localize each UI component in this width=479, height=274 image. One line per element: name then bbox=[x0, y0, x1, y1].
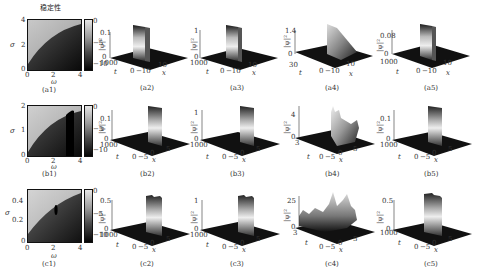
t-label: t bbox=[307, 154, 310, 161]
x-tick: 10 bbox=[158, 62, 167, 69]
x-tick: 5 bbox=[256, 236, 260, 243]
heatmap-c1 bbox=[27, 189, 82, 243]
t-tick: 1000 bbox=[380, 142, 398, 149]
x-tick: 4 bbox=[78, 72, 82, 79]
t-tick: 0 bbox=[220, 68, 224, 75]
t-label: t bbox=[206, 69, 209, 76]
x-tick: 5 bbox=[353, 146, 357, 153]
z-label: |ψ|² bbox=[377, 121, 384, 134]
x-tick: −10 bbox=[226, 68, 241, 75]
t-tick: 0 bbox=[222, 154, 226, 161]
x-tick: 0 bbox=[25, 72, 29, 79]
y-tick: 2 bbox=[21, 42, 25, 49]
t-label: t bbox=[305, 240, 308, 247]
z-tick: 0.5 bbox=[382, 198, 393, 205]
x-label: x bbox=[434, 247, 438, 254]
caption-c1: (c1) bbox=[42, 260, 56, 268]
y-tick: 0.2 bbox=[12, 217, 23, 224]
x-label: x bbox=[152, 247, 156, 254]
x-tick: −10 bbox=[136, 68, 151, 75]
x-tick: 0 bbox=[25, 158, 29, 165]
x-tick: −5 bbox=[325, 244, 335, 251]
x-tick: −10 bbox=[325, 68, 340, 75]
colorbar-a1 bbox=[84, 19, 93, 71]
y-label: σ bbox=[10, 42, 15, 49]
z-tick: 1 bbox=[194, 110, 198, 117]
caption-a1: (a1) bbox=[42, 86, 56, 94]
x-tick: 5 bbox=[448, 236, 452, 243]
t-label: t bbox=[114, 69, 117, 76]
x-label: x bbox=[242, 157, 246, 164]
x-tick: −5 bbox=[420, 154, 430, 161]
x-label: x bbox=[152, 157, 156, 164]
t-label: t bbox=[398, 154, 401, 161]
z-label: |ψ|² bbox=[284, 209, 291, 222]
z-label: |ψ|² bbox=[377, 39, 384, 52]
t-tick: 0 bbox=[319, 244, 323, 251]
caption-b3: (b3) bbox=[230, 170, 244, 178]
panel-c3: 1 0 |ψ|² 1000 t 0 −5 0 5 x (c3) bbox=[190, 180, 285, 274]
t-tick: 0 bbox=[416, 68, 420, 75]
t-label: t bbox=[299, 70, 302, 77]
x-tick: 5 bbox=[256, 146, 260, 153]
x-label: x bbox=[434, 157, 438, 164]
x-tick: 10 bbox=[248, 62, 257, 69]
caption-c4: (c4) bbox=[325, 260, 339, 268]
figure-title: 稳定性 bbox=[40, 2, 61, 12]
x-label: x bbox=[339, 247, 343, 254]
cbar-tick: 0 bbox=[93, 188, 97, 195]
z-tick: 25 bbox=[287, 198, 296, 205]
y-tick: 1 bbox=[21, 127, 25, 134]
x-tick: −10 bbox=[422, 68, 437, 75]
x-tick: −5 bbox=[138, 244, 148, 251]
x-label: x bbox=[349, 71, 353, 78]
z-tick: 0.1 bbox=[100, 30, 111, 37]
t-tick: 1000 bbox=[380, 59, 398, 66]
t-tick: 1000 bbox=[100, 60, 118, 67]
x-tick: −5 bbox=[228, 244, 238, 251]
z-tick: 0 bbox=[288, 51, 292, 58]
x-tick: −5 bbox=[420, 244, 430, 251]
z-label: |ψ|² bbox=[191, 211, 198, 224]
x-tick: 0 bbox=[25, 245, 29, 252]
panel-b5: 0.1 0 |ψ|² 1000 t 0 −5 0 5 x (b5) bbox=[380, 90, 479, 182]
t-tick: 0 bbox=[319, 68, 323, 75]
t-label: t bbox=[396, 69, 399, 76]
heatmap-a1 bbox=[27, 19, 82, 71]
x-tick: 5 bbox=[166, 146, 170, 153]
t-label: t bbox=[206, 242, 209, 249]
t-tick: 3 bbox=[293, 230, 297, 237]
panel-c4: 25 0 |ψ|² 3 t 0 −5 0 5 x (c4) bbox=[285, 180, 380, 274]
x-label: x bbox=[162, 70, 166, 77]
x-tick: 4 bbox=[78, 158, 82, 165]
z-tick: 1 bbox=[194, 198, 198, 205]
caption-b5: (b5) bbox=[424, 170, 438, 178]
t-label: t bbox=[116, 154, 119, 161]
x-tick: 10 bbox=[346, 61, 355, 68]
caption-b1: (b1) bbox=[42, 170, 56, 178]
colorbar-c1 bbox=[84, 189, 93, 243]
panel-b3: 1 0 |ψ|² 1000 t 0 −5 0 5 x (b3) bbox=[190, 90, 285, 182]
y-tick: 4 bbox=[21, 17, 25, 24]
z-tick: 0 bbox=[384, 51, 388, 58]
panel-a3: 1 0 |ψ|² 1000 t 0 −10 10 x (a3) bbox=[190, 0, 285, 92]
x-label: ω bbox=[51, 253, 57, 260]
z-tick: 4 bbox=[291, 112, 295, 119]
x-tick: 5 bbox=[353, 236, 357, 243]
t-tick: 1000 bbox=[100, 142, 118, 149]
t-tick: 1000 bbox=[190, 232, 208, 239]
x-label: x bbox=[242, 247, 246, 254]
z-tick: 1.4 bbox=[285, 28, 296, 35]
panel-a4: 1.4 0 |ψ|² 30 t 0 −10 10 x (a4) bbox=[285, 0, 380, 92]
t-tick: 1000 bbox=[380, 230, 398, 237]
x-label: x bbox=[446, 70, 450, 77]
x-tick: −5 bbox=[325, 154, 335, 161]
z-label: |ψ|² bbox=[284, 121, 291, 134]
colorbar-b1 bbox=[84, 105, 93, 157]
caption-c2: (c2) bbox=[140, 260, 154, 268]
t-tick: 0 bbox=[414, 244, 418, 251]
z-label: |ψ|² bbox=[99, 38, 106, 51]
caption-b4: (b4) bbox=[325, 170, 339, 178]
t-tick: 1000 bbox=[100, 232, 118, 239]
caption-c5: (c5) bbox=[424, 260, 438, 268]
